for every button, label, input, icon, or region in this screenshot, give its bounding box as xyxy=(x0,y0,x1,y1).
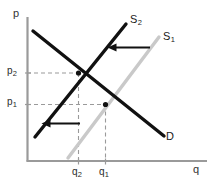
x-tick-label-q1: q1 xyxy=(99,167,109,177)
x-tick-label-q2-subscript: 2 xyxy=(78,170,82,179)
equilibrium-point-old xyxy=(103,102,108,107)
equilibrium-point-new xyxy=(76,70,81,75)
x-tick-label-q2-base: q xyxy=(72,166,78,177)
supply-curve-s2 xyxy=(35,24,126,137)
y-tick-label-p1-subscript: 1 xyxy=(13,100,17,109)
axes-group xyxy=(27,17,208,162)
guide-lines-group xyxy=(27,73,106,161)
chart-canvas xyxy=(0,0,209,184)
curve-label-s2-base: S xyxy=(130,13,137,25)
y-tick-label-p1-base: p xyxy=(7,96,13,107)
y-tick-label-p2-base: p xyxy=(7,65,13,76)
x-tick-label-q1-base: q xyxy=(99,166,105,177)
y-tick-label-p2-subscript: 2 xyxy=(13,69,17,78)
y-tick-label-p1: p1 xyxy=(7,97,17,107)
curve-label-d: D xyxy=(166,131,174,142)
curve-label-s1-base: S xyxy=(163,30,170,42)
tick-marks-group xyxy=(25,73,106,165)
curve-label-s2-subscript: 2 xyxy=(138,18,142,27)
curve-label-s2: S2 xyxy=(130,14,142,25)
y-axis-label: p xyxy=(13,8,19,19)
x-tick-label-q1-subscript: 1 xyxy=(105,170,109,179)
shift-arrows-group xyxy=(42,43,151,127)
curve-label-s1: S1 xyxy=(163,31,175,42)
left-arrow-icon-upper xyxy=(108,43,151,51)
supply-demand-chart: p q p2 p1 q2 q1 S2 S1 D xyxy=(0,0,209,184)
x-tick-label-q2: q2 xyxy=(72,167,82,177)
x-axis-label: q xyxy=(193,164,199,175)
y-tick-label-p2: p2 xyxy=(7,66,17,76)
curve-label-s1-subscript: 1 xyxy=(171,35,175,44)
